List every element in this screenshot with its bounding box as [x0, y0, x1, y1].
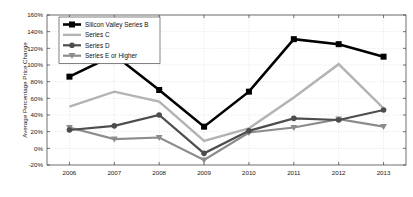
- y-tick-label: 60%: [31, 95, 44, 102]
- legend-item-label: Series C: [85, 31, 110, 38]
- y-tick-label: 120%: [27, 45, 43, 52]
- y-tick-label: 0%: [34, 145, 43, 152]
- series-marker: [156, 112, 162, 118]
- series-marker: [112, 123, 118, 129]
- x-tick-label: 2012: [332, 169, 346, 176]
- y-axis-label: Average Percentage Price Change: [21, 42, 28, 138]
- y-tick-label: 20%: [31, 128, 44, 135]
- series-marker: [336, 117, 342, 123]
- line-chart: -20%0%20%40%60%80%100%120%140%160% 20062…: [0, 0, 413, 197]
- series-marker: [291, 116, 297, 122]
- legend-item-label: Series D: [85, 42, 110, 49]
- y-tick-label: 160%: [27, 11, 43, 18]
- chart-legend: Silicon Valley Series BSeries CSeries DS…: [59, 17, 160, 64]
- x-tick-label: 2008: [152, 169, 166, 176]
- legend-swatch-marker: [69, 22, 75, 28]
- y-tick-label: 80%: [31, 78, 44, 85]
- series-marker: [67, 127, 73, 133]
- legend-item-label: Silicon Valley Series B: [85, 21, 148, 29]
- x-tick-label: 2006: [63, 169, 77, 176]
- legend-item-label: Series E or Higher: [85, 52, 138, 60]
- x-tick-label: 2009: [197, 169, 211, 176]
- series-marker: [201, 124, 207, 130]
- chart-figure: -20%0%20%40%60%80%100%120%140%160% 20062…: [0, 0, 413, 197]
- y-tick-label: -20%: [29, 161, 44, 168]
- series-marker: [246, 128, 252, 134]
- series-marker: [291, 36, 297, 42]
- x-tick-label: 2013: [377, 169, 391, 176]
- series-marker: [381, 107, 387, 113]
- legend-swatch-marker: [69, 43, 75, 49]
- series-marker: [66, 74, 72, 80]
- y-tick-label: 40%: [31, 111, 44, 118]
- series-marker: [381, 54, 387, 60]
- x-tick-label: 2007: [107, 169, 121, 176]
- y-axis-title: Average Percentage Price Change: [21, 42, 28, 138]
- series-marker: [156, 87, 162, 93]
- y-tick-label: 100%: [27, 61, 43, 68]
- series-marker: [246, 89, 252, 95]
- series-marker: [201, 151, 207, 157]
- x-tick-label: 2011: [287, 169, 301, 176]
- x-tick-label: 2010: [242, 169, 256, 176]
- y-tick-label: 140%: [27, 28, 43, 35]
- series-marker: [336, 41, 342, 47]
